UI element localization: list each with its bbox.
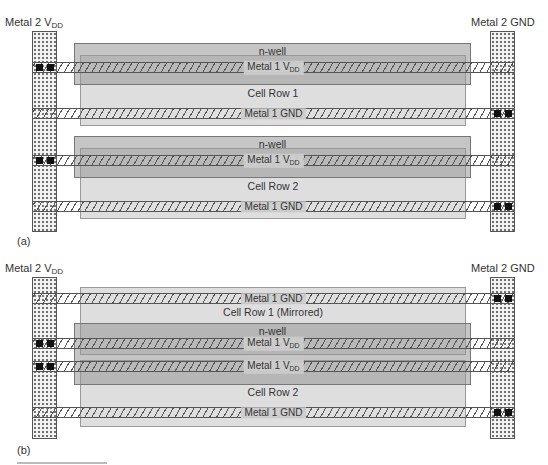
- metal1-gnd-stripe-b2: Metal 1 GND: [32, 407, 515, 418]
- via-icon: [505, 110, 512, 117]
- metal2-gnd-label: Metal 2 GND: [471, 16, 535, 28]
- via-icon: [36, 64, 43, 71]
- via-icon: [47, 157, 54, 164]
- shared-n-well-label: n-well: [75, 325, 470, 337]
- via-icon: [36, 340, 43, 347]
- metal1-vdd-label-1: Metal 1 VDD: [243, 60, 303, 74]
- metal1-gnd-label-b2: Metal 1 GND: [241, 407, 307, 418]
- metal1-vdd-stripe-1: Metal 1 VDD: [32, 62, 515, 73]
- metal1-gnd-label-1: Metal 1 GND: [241, 108, 307, 119]
- cell-row-1-label: Cell Row 1: [81, 87, 465, 99]
- via-icon: [505, 409, 512, 416]
- metal1-gnd-stripe-1: Metal 1 GND: [32, 108, 515, 119]
- metal2-gnd-label-b: Metal 2 GND: [471, 262, 535, 274]
- via-icon: [494, 110, 501, 117]
- metal1-gnd-stripe-2: Metal 1 GND: [32, 201, 515, 212]
- metal2-vdd-label: Metal 2 VDD: [5, 16, 63, 30]
- shared-n-well: n-well: [74, 323, 471, 385]
- cell-row-2-label: Cell Row 2: [81, 180, 465, 192]
- metal1-gnd-stripe-b1: Metal 1 GND: [32, 293, 515, 304]
- via-icon: [494, 409, 501, 416]
- metal1-vdd-stripe-2: Metal 1 VDD: [32, 155, 515, 166]
- caption-fragment: [17, 462, 107, 464]
- via-icon: [505, 295, 512, 302]
- via-icon: [47, 64, 54, 71]
- n-well-2-label: n-well: [75, 138, 470, 150]
- n-well-1-label: n-well: [75, 45, 470, 57]
- metal1-vdd-stripe-b1: Metal 1 VDD: [32, 338, 515, 349]
- via-icon: [494, 203, 501, 210]
- via-icon: [36, 157, 43, 164]
- panel-b-label: (b): [17, 444, 30, 456]
- cell-row-2-b-label: Cell Row 2: [81, 386, 465, 398]
- metal1-gnd-label-b1: Metal 1 GND: [241, 293, 307, 304]
- via-icon: [505, 203, 512, 210]
- metal1-vdd-label-b1: Metal 1 VDD: [243, 336, 303, 350]
- via-icon: [47, 340, 54, 347]
- metal1-vdd-stripe-b2: Metal 1 VDD: [32, 361, 515, 372]
- panel-a-label: (a): [17, 235, 30, 247]
- via-icon: [47, 363, 54, 370]
- via-icon: [494, 295, 501, 302]
- via-icon: [36, 363, 43, 370]
- metal1-gnd-label-2: Metal 1 GND: [241, 201, 307, 212]
- metal2-vdd-label-b: Metal 2 VDD: [5, 262, 63, 276]
- metal1-vdd-label-2: Metal 1 VDD: [243, 153, 303, 167]
- cell-row-1-mirrored-label: Cell Row 1 (Mirrored): [81, 306, 465, 318]
- metal1-vdd-label-b2: Metal 1 VDD: [243, 359, 303, 373]
